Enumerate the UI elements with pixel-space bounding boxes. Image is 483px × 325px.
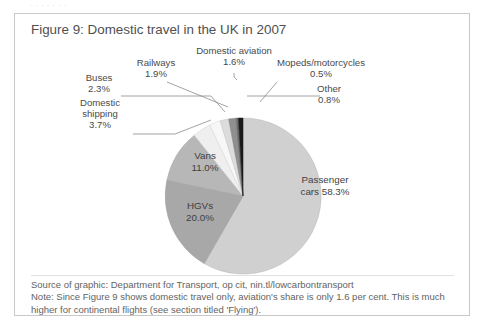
callout-buses: Buses 2.3% bbox=[73, 72, 125, 94]
callout-mopeds-name: Mopeds/motorcycles bbox=[277, 57, 365, 68]
callout-railways-value: 1.9% bbox=[123, 68, 189, 79]
callout-domestic-aviation-name: Domestic aviation bbox=[196, 45, 272, 56]
leader-line-railways bbox=[167, 82, 228, 107]
slice-label-hgvs-name: HGVs bbox=[187, 200, 213, 211]
leader-line-mopeds bbox=[260, 82, 277, 102]
footer-source: Source of graphic: Department for Transp… bbox=[31, 279, 457, 291]
slice-label-passenger-cars-line1: Passenger bbox=[302, 174, 349, 185]
figure-title: Figure 9: Domestic travel in the UK in 2… bbox=[31, 22, 286, 37]
page-bleed-text: · · · · · · · bbox=[0, 0, 483, 11]
slice-label-passenger-cars-line2: cars 58.3% bbox=[300, 186, 349, 197]
slice-label-hgvs: HGVs 20.0% bbox=[165, 200, 235, 223]
callout-domestic-shipping-value: 3.7% bbox=[67, 119, 133, 130]
slice-label-hgvs-value: 20.0% bbox=[186, 212, 214, 223]
slice-label-vans-name: Vans bbox=[194, 150, 216, 161]
callout-domestic-shipping-line2: shipping bbox=[67, 108, 133, 119]
callout-mopeds: Mopeds/motorcycles 0.5% bbox=[253, 57, 389, 79]
slice-label-vans-value: 11.0% bbox=[191, 162, 218, 173]
figure-panel: Figure 9: Domestic travel in the UK in 2… bbox=[14, 13, 470, 316]
slice-label-vans: Vans 11.0% bbox=[170, 150, 240, 173]
callout-other-value: 0.8% bbox=[305, 94, 353, 105]
footer-divider bbox=[31, 275, 454, 276]
leader-line-domestic-aviation bbox=[234, 73, 237, 80]
callout-buses-value: 2.3% bbox=[73, 83, 125, 94]
callout-mopeds-value: 0.5% bbox=[253, 68, 389, 79]
callout-domestic-shipping-line1: Domestic bbox=[80, 97, 120, 108]
leader-line-buses bbox=[121, 96, 225, 112]
pie-chart: Passenger cars 58.3% HGVs 20.0% Vans 11.… bbox=[15, 40, 469, 275]
slice-label-passenger-cars: Passenger cars 58.3% bbox=[275, 174, 375, 197]
callout-other-name: Other bbox=[317, 83, 341, 94]
callout-other: Other 0.8% bbox=[305, 83, 353, 105]
callout-domestic-shipping: Domestic shipping 3.7% bbox=[67, 97, 133, 131]
callout-buses-name: Buses bbox=[86, 72, 113, 83]
figure-footer: Source of graphic: Department for Transp… bbox=[31, 279, 457, 316]
footer-note: Note: Since Figure 9 shows domestic trav… bbox=[31, 291, 457, 316]
